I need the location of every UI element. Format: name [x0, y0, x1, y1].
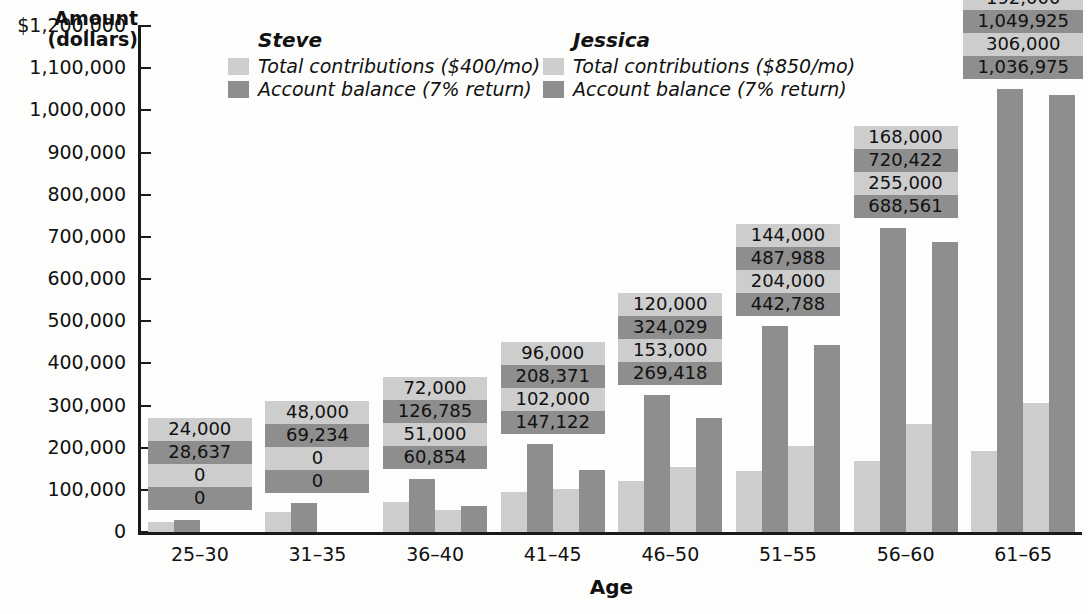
- x-axis-tick-label: 25–30: [141, 543, 259, 565]
- y-axis-tick-label: 200,000: [0, 438, 138, 457]
- bar-value-label: 324,029: [618, 316, 722, 339]
- bar[interactable]: [265, 512, 291, 532]
- bar[interactable]: [997, 89, 1023, 532]
- bar-value-label: 688,561: [854, 195, 958, 218]
- bar-value-label: 720,422: [854, 149, 958, 172]
- x-axis-title: Age: [141, 575, 1082, 599]
- bar-value-label-stack: 120,000324,029153,000269,418: [618, 293, 722, 385]
- bar-group: 144,000487,988204,000442,788: [729, 26, 847, 532]
- bar[interactable]: [906, 424, 932, 532]
- y-axis-tick-label: 600,000: [0, 269, 138, 288]
- bar-value-label: 168,000: [854, 126, 958, 149]
- y-axis-tick-label: $1,200,000: [0, 16, 138, 35]
- bar-group: 72,000126,78551,00060,854: [376, 26, 494, 532]
- bar-value-label: 147,122: [501, 411, 605, 434]
- bar-value-label: 442,788: [736, 293, 840, 316]
- bar-value-label: 306,000: [963, 33, 1083, 56]
- x-axis-tick-label: 36–40: [376, 543, 494, 565]
- bar-value-label: 0: [265, 447, 369, 470]
- bar-group: 24,00028,63700: [141, 26, 259, 532]
- bar-value-label: 204,000: [736, 270, 840, 293]
- bar-value-label: 153,000: [618, 339, 722, 362]
- y-axis-tick-label: 300,000: [0, 396, 138, 415]
- bar-value-label: 144,000: [736, 224, 840, 247]
- x-axis-tick-label: 31–35: [259, 543, 377, 565]
- bar-group-bars: [847, 26, 965, 532]
- bar-value-label: 51,000: [383, 423, 487, 446]
- bar-group: 48,00069,23400: [259, 26, 377, 532]
- y-axis-tick-label: 0: [0, 522, 138, 541]
- bar-value-label: 0: [148, 487, 252, 510]
- bar-value-label: 69,234: [265, 424, 369, 447]
- bar[interactable]: [174, 520, 200, 532]
- x-axis-tick-label: 41–45: [494, 543, 612, 565]
- bar[interactable]: [762, 326, 788, 532]
- bar[interactable]: [696, 418, 722, 532]
- bar[interactable]: [1049, 95, 1075, 532]
- bar[interactable]: [618, 481, 644, 532]
- x-axis-tick-label: 51–55: [729, 543, 847, 565]
- x-axis-tick-label: 46–50: [612, 543, 730, 565]
- bar-value-label-stack: 72,000126,78551,00060,854: [383, 377, 487, 469]
- bar[interactable]: [932, 242, 958, 532]
- y-axis-tick-label: 500,000: [0, 311, 138, 330]
- y-axis-tick-label: 100,000: [0, 480, 138, 499]
- bar-value-label-stack: 24,00028,63700: [148, 418, 252, 510]
- bar-value-label: 28,637: [148, 441, 252, 464]
- y-axis-tick-label: 1,000,000: [0, 100, 138, 119]
- y-axis-tick-label: 800,000: [0, 185, 138, 204]
- bar-value-label: 487,988: [736, 247, 840, 270]
- bar[interactable]: [971, 451, 997, 532]
- bar[interactable]: [148, 522, 174, 532]
- bar[interactable]: [435, 510, 461, 532]
- bar-value-label: 96,000: [501, 342, 605, 365]
- y-axis-tick-label: 1,100,000: [0, 58, 138, 77]
- x-axis-line: [138, 532, 1082, 535]
- bar[interactable]: [1023, 403, 1049, 532]
- y-axis-tick-label: 900,000: [0, 143, 138, 162]
- bar[interactable]: [670, 467, 696, 532]
- bar[interactable]: [854, 461, 880, 532]
- bar[interactable]: [501, 492, 527, 532]
- bar-value-label: 208,371: [501, 365, 605, 388]
- bar-value-label: 120,000: [618, 293, 722, 316]
- bar-group-bars: [612, 26, 730, 532]
- y-axis-tick-label: 700,000: [0, 227, 138, 246]
- plot-area: 24,00028,6370048,00069,2340072,000126,78…: [141, 26, 1082, 532]
- bar-group: 120,000324,029153,000269,418: [612, 26, 730, 532]
- bar-group-bars: [964, 26, 1082, 532]
- bar-group-bars: [494, 26, 612, 532]
- bar-value-label-stack: 96,000208,371102,000147,122: [501, 342, 605, 434]
- bar-value-label: 1,049,925: [963, 10, 1083, 33]
- bar[interactable]: [736, 471, 762, 532]
- bar[interactable]: [383, 502, 409, 532]
- bar-value-label: 24,000: [148, 418, 252, 441]
- bar[interactable]: [409, 479, 435, 532]
- bar[interactable]: [788, 446, 814, 532]
- bar[interactable]: [644, 395, 670, 532]
- bar-value-label: 255,000: [854, 172, 958, 195]
- bar[interactable]: [880, 228, 906, 532]
- bar-value-label: 48,000: [265, 401, 369, 424]
- bar-value-label: 0: [265, 470, 369, 493]
- bar[interactable]: [527, 444, 553, 532]
- bar-group: 96,000208,371102,000147,122: [494, 26, 612, 532]
- bar-value-label: 0: [148, 464, 252, 487]
- x-axis-tick-label: 56–60: [847, 543, 965, 565]
- bar-value-label-stack: 48,00069,23400: [265, 401, 369, 493]
- bar[interactable]: [814, 345, 840, 532]
- bar-group: 192,0001,049,925306,0001,036,975: [964, 26, 1082, 532]
- chart-canvas: Amount (dollars) $1,200,0001,100,0001,00…: [0, 0, 1088, 614]
- bar-group: 168,000720,422255,000688,561: [847, 26, 965, 532]
- bar-value-label: 126,785: [383, 400, 487, 423]
- y-axis-tick-label: 400,000: [0, 353, 138, 372]
- bar-value-label-stack: 168,000720,422255,000688,561: [854, 126, 958, 218]
- bar-value-label-stack: 144,000487,988204,000442,788: [736, 224, 840, 316]
- bar[interactable]: [461, 506, 487, 532]
- bar-value-label: 269,418: [618, 362, 722, 385]
- bar[interactable]: [291, 503, 317, 532]
- y-axis-tick-labels: $1,200,0001,100,0001,000,000900,000800,0…: [0, 0, 138, 614]
- bar[interactable]: [553, 489, 579, 532]
- bar-value-label-stack: 192,0001,049,925306,0001,036,975: [963, 0, 1083, 79]
- bar[interactable]: [579, 470, 605, 532]
